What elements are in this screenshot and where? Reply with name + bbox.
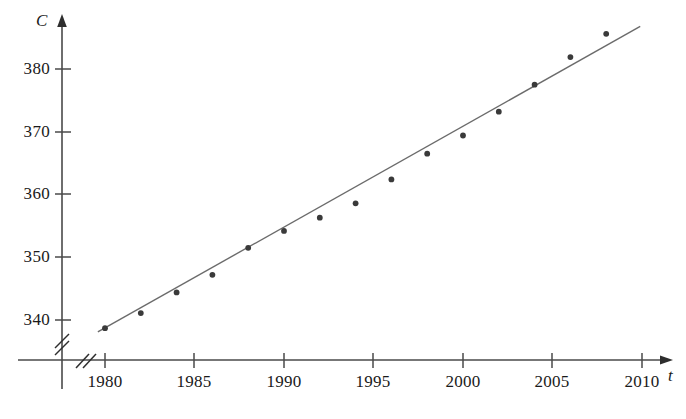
- plot-canvas: [0, 0, 686, 419]
- x-tick-label-1995: 1995: [343, 372, 403, 392]
- y-tick-label-370: 370: [0, 122, 50, 142]
- y-axis-ticks: [55, 69, 71, 320]
- data-point: [424, 151, 430, 157]
- y-axis-label: C: [36, 11, 47, 31]
- regression-line: [98, 26, 640, 332]
- data-point: [460, 133, 466, 139]
- x-tick-label-2005: 2005: [522, 372, 582, 392]
- data-point: [568, 54, 574, 60]
- x-axis: [18, 355, 673, 364]
- data-point: [389, 177, 395, 183]
- data-point: [210, 272, 216, 278]
- data-point: [353, 200, 359, 206]
- x-tick-label-2000: 2000: [433, 372, 493, 392]
- y-tick-label-350: 350: [0, 247, 50, 267]
- x-tick-label-1990: 1990: [254, 372, 314, 392]
- data-point: [532, 82, 538, 88]
- data-point: [102, 325, 108, 331]
- data-point: [317, 215, 323, 221]
- y-axis: [57, 14, 67, 389]
- y-tick-label-360: 360: [0, 184, 50, 204]
- data-point: [281, 228, 287, 234]
- scatter-chart-figure: C t 380 370 360 350 340 1980 1985 1990 1…: [0, 0, 686, 419]
- x-axis-break-mark: [76, 354, 96, 368]
- x-tick-label-2010: 2010: [612, 372, 672, 392]
- data-point: [496, 109, 502, 115]
- data-point: [245, 245, 251, 251]
- y-tick-label-340: 340: [0, 310, 50, 330]
- data-point: [603, 31, 609, 37]
- y-tick-label-380: 380: [0, 59, 50, 79]
- x-tick-label-1985: 1985: [164, 372, 224, 392]
- data-point: [138, 310, 144, 316]
- data-point: [174, 289, 180, 295]
- x-tick-label-1980: 1980: [75, 372, 135, 392]
